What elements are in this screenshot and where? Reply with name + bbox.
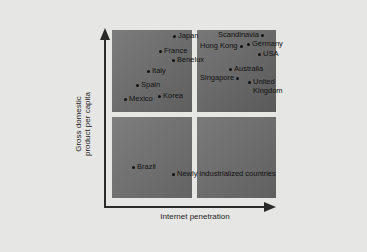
point-label: Hong Kong xyxy=(200,41,238,50)
point-benelux: Benelux xyxy=(170,55,204,64)
quadrant-bottom-left xyxy=(112,117,192,198)
chart-frame: Gross domestic product per capita Intern… xyxy=(0,0,367,252)
dot-icon xyxy=(124,98,127,101)
point-label: USA xyxy=(263,49,278,58)
point-label-line2: Kingdom xyxy=(253,86,283,95)
point-label: Singapore xyxy=(200,73,234,82)
dot-icon xyxy=(173,35,176,38)
point-label: Spain xyxy=(141,80,160,89)
point-label: Germany xyxy=(252,39,283,48)
dot-icon xyxy=(136,84,139,87)
point-australia: Australia xyxy=(227,64,263,73)
point-label: Korea xyxy=(163,91,183,100)
dot-icon xyxy=(240,45,243,48)
point-label: Italy xyxy=(152,66,166,75)
point-japan: Japan xyxy=(171,31,198,40)
dot-icon xyxy=(247,43,250,46)
point-label: Brazil xyxy=(137,162,156,171)
point-brazil: Brazil xyxy=(130,162,156,171)
dot-icon xyxy=(172,59,175,62)
y-axis xyxy=(104,38,106,208)
dot-icon xyxy=(248,81,251,84)
point-label: Newly industrialized countries xyxy=(177,169,276,178)
point-label: France xyxy=(164,46,187,55)
x-axis-arrow-icon xyxy=(264,202,276,212)
point-label: Benelux xyxy=(177,55,204,64)
x-axis xyxy=(104,206,266,208)
point-hong-kong: Hong Kong xyxy=(200,41,245,50)
point-korea: Korea xyxy=(156,91,183,100)
point-france: France xyxy=(157,46,187,55)
dot-icon xyxy=(172,173,175,176)
point-italy: Italy xyxy=(145,66,166,75)
dot-icon xyxy=(261,34,264,37)
point-singapore: Singapore xyxy=(200,73,241,82)
y-axis-label-line2: product per capita xyxy=(83,69,92,179)
quadrant-bottom-right xyxy=(197,117,276,198)
y-axis-label-line1: Gross domestic xyxy=(74,69,83,179)
dot-icon xyxy=(236,77,239,80)
point-germany: Germany xyxy=(245,39,283,48)
point-label: United xyxy=(253,77,275,86)
dot-icon xyxy=(147,70,150,73)
dot-icon xyxy=(158,95,161,98)
point-label: Mexico xyxy=(129,94,153,103)
point-scandinavia: Scandinavia xyxy=(218,30,266,39)
point-united-kingdom: UnitedKingdom xyxy=(246,77,283,95)
point-label: Japan xyxy=(178,31,198,40)
dot-icon xyxy=(258,53,261,56)
point-usa: USA xyxy=(256,49,278,58)
dot-icon xyxy=(132,166,135,169)
x-axis-label: Internet penetration xyxy=(140,212,250,221)
point-label: Australia xyxy=(234,64,263,73)
dot-icon xyxy=(159,50,162,53)
y-axis-label: Gross domestic product per capita xyxy=(74,69,92,179)
y-axis-arrow-icon xyxy=(100,28,110,40)
point-mexico: Mexico xyxy=(122,94,153,103)
point-newly-industrialized-countries: Newly industrialized countries xyxy=(170,169,276,178)
point-label: Scandinavia xyxy=(218,30,259,39)
point-spain: Spain xyxy=(134,80,160,89)
dot-icon xyxy=(229,68,232,71)
